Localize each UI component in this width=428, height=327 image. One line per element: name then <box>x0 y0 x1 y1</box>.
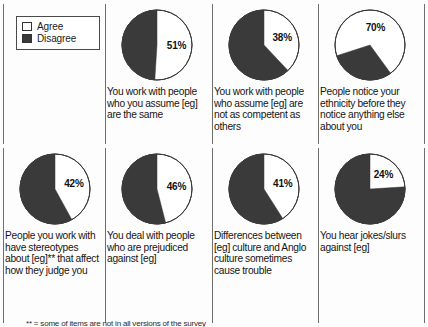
legend-item-disagree: Disagree <box>22 33 95 44</box>
legend-label-disagree: Disagree <box>37 33 76 44</box>
pie-caption: People notice your ethnicity before they… <box>319 86 419 132</box>
pie-caption: You work with people who assume [eg] are… <box>213 86 313 132</box>
pie-caption: You deal with people who are prejudiced … <box>106 230 206 265</box>
column-divider <box>424 4 425 144</box>
pie-svg <box>227 8 301 82</box>
pie-percent-label: 51% <box>167 40 186 51</box>
pie-cell: 41%Differences between [eg] culture and … <box>213 150 315 322</box>
legend-item-agree: Agree <box>22 21 95 32</box>
column-divider <box>424 148 425 323</box>
pie-cell: 24%You hear jokes/slurs against [eg] <box>319 150 421 322</box>
pie-percent-label: 24% <box>374 169 393 180</box>
pie-not-competent: 38% <box>213 6 315 80</box>
legend-swatch-disagree-icon <box>22 34 32 43</box>
legend-cell: Agree Disagree <box>4 6 106 144</box>
pie-svg <box>333 8 407 82</box>
pie-svg <box>333 152 407 226</box>
pie-slice-disagree <box>122 10 157 80</box>
pie-cell: 70%People notice your ethnicity before t… <box>319 6 421 144</box>
pie-notice-ethnicity: 70% <box>319 6 421 80</box>
pie-percent-label: 70% <box>366 22 385 33</box>
agree-disagree-legend: Agree Disagree <box>16 16 100 50</box>
legend-swatch-agree-icon <box>22 22 32 31</box>
pie-chart-figure: Agree Disagree 51%You work with people w… <box>0 0 428 327</box>
pie-percent-label: 38% <box>273 32 292 43</box>
pie-stereotypes: 42% <box>4 150 106 224</box>
legend-label-agree: Agree <box>37 21 63 32</box>
pie-caption: People you work with have stereotypes ab… <box>4 230 104 276</box>
pie-jokes-slurs: 24% <box>319 150 421 224</box>
footnote: ** = some of items are not in all versio… <box>26 319 418 327</box>
pie-percent-label: 41% <box>273 178 292 189</box>
pie-prejudiced: 46% <box>106 150 208 224</box>
pie-cell: 42%People you work with have stereotypes… <box>4 150 106 322</box>
pie-assume-same: 51% <box>106 6 208 80</box>
pie-caption: Differences between [eg] culture and Ang… <box>213 230 313 276</box>
pie-percent-label: 46% <box>167 181 186 192</box>
pie-caption: You hear jokes/slurs against [eg] <box>319 230 419 253</box>
pie-caption: You work with people who you assume [eg]… <box>106 86 206 121</box>
pie-cell: 46%You deal with people who are prejudic… <box>106 150 208 322</box>
pie-cell: 51%You work with people who you assume [… <box>106 6 208 144</box>
pie-svg <box>227 152 301 226</box>
pie-percent-label: 42% <box>64 178 83 189</box>
pie-culture-trouble: 41% <box>213 150 315 224</box>
pie-cell: 38%You work with people who assume [eg] … <box>213 6 315 144</box>
